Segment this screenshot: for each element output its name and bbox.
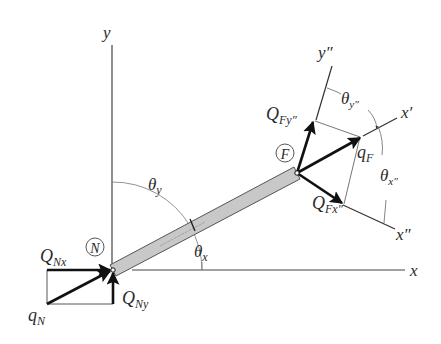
theta-x2-arc <box>378 126 383 155</box>
force-q-ny-label: QNy <box>122 288 149 311</box>
theta-x2-tick <box>384 200 386 223</box>
force-q-nx-label: QNx <box>40 246 67 269</box>
theta-x2-label: θx″ <box>380 166 398 187</box>
bar-element-force-diagram: y x N QNx QNy qN θy θx x′ y″ x″ <box>0 0 441 344</box>
rotated-y2-label: y″ <box>316 43 334 62</box>
force-q-n-label: qN <box>28 305 46 328</box>
force-q-fx2-label: QFx″ <box>312 193 344 216</box>
node-n-pin <box>111 268 115 272</box>
node-f-pin <box>295 171 299 175</box>
local-x-prime-axis <box>363 118 397 136</box>
theta-y2-arc <box>327 88 341 94</box>
force-q-f-label: qF <box>357 142 374 165</box>
node-f-label: F <box>280 147 290 162</box>
qf-rect-top <box>315 121 360 137</box>
theta-y2-arc-long <box>368 110 377 129</box>
rotated-x2-label: x″ <box>395 225 412 244</box>
force-q-n-arrow <box>47 271 110 304</box>
node-n-label: N <box>89 241 100 256</box>
theta-x-label: θx <box>194 242 208 264</box>
theta-y-label: θy <box>148 175 162 197</box>
theta-y2-label: θy″ <box>341 89 359 110</box>
force-q-fy2-label: QFy″ <box>266 104 298 127</box>
rotated-x2-axis <box>343 205 395 229</box>
rotated-y2-axis <box>316 66 332 120</box>
global-x-axis-label: x <box>409 261 418 280</box>
global-y-axis-label: y <box>101 23 111 42</box>
local-x-prime-label: x′ <box>400 103 413 122</box>
